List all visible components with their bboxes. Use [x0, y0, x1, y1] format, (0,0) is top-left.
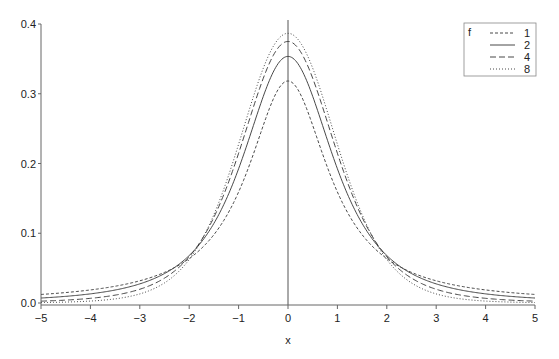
x-tick-label: 4	[483, 312, 489, 324]
x-tick-label: −3	[134, 312, 147, 324]
y-tick-label: 0.2	[21, 158, 36, 170]
legend: f1248	[464, 23, 536, 76]
y-axis: 0.00.10.20.30.4	[21, 18, 41, 309]
y-tick-label: 0.4	[21, 18, 36, 30]
x-tick-label: 5	[532, 312, 538, 324]
legend-label-f-8: 8	[524, 63, 530, 75]
x-tick-label: 2	[384, 312, 390, 324]
x-tick-label: −5	[35, 312, 48, 324]
x-tick-label: −2	[183, 312, 196, 324]
x-tick-label: 3	[433, 312, 439, 324]
x-tick-label: −1	[232, 312, 245, 324]
legend-label-f-1: 1	[524, 27, 530, 39]
x-tick-label: 0	[285, 312, 291, 324]
t-density-chart: 0.00.10.20.30.4 −5−4−3−2−1012345 x f1248	[0, 0, 559, 359]
x-axis-title: x	[285, 334, 291, 346]
x-tick-label: 1	[334, 312, 340, 324]
y-tick-label: 0.1	[21, 227, 36, 239]
x-tick-label: −4	[84, 312, 97, 324]
y-tick-label: 0.0	[21, 297, 36, 309]
y-tick-label: 0.3	[21, 88, 36, 100]
legend-label-f-4: 4	[524, 51, 530, 63]
legend-label-f-2: 2	[524, 39, 530, 51]
x-axis: −5−4−3−2−1012345	[35, 305, 538, 324]
